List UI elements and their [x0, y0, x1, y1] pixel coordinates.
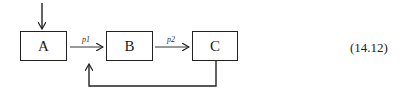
node-c-label: C	[210, 38, 220, 55]
edge-label-p2: p2	[167, 35, 175, 44]
node-b: B	[106, 31, 153, 61]
edge-label-p1: p1	[82, 35, 90, 44]
node-b-label: B	[124, 38, 134, 55]
node-a: A	[20, 31, 67, 61]
equation-number: (14.12)	[350, 40, 388, 56]
feedback-line	[89, 61, 216, 86]
node-c: C	[192, 31, 238, 61]
node-a-label: A	[38, 38, 49, 55]
